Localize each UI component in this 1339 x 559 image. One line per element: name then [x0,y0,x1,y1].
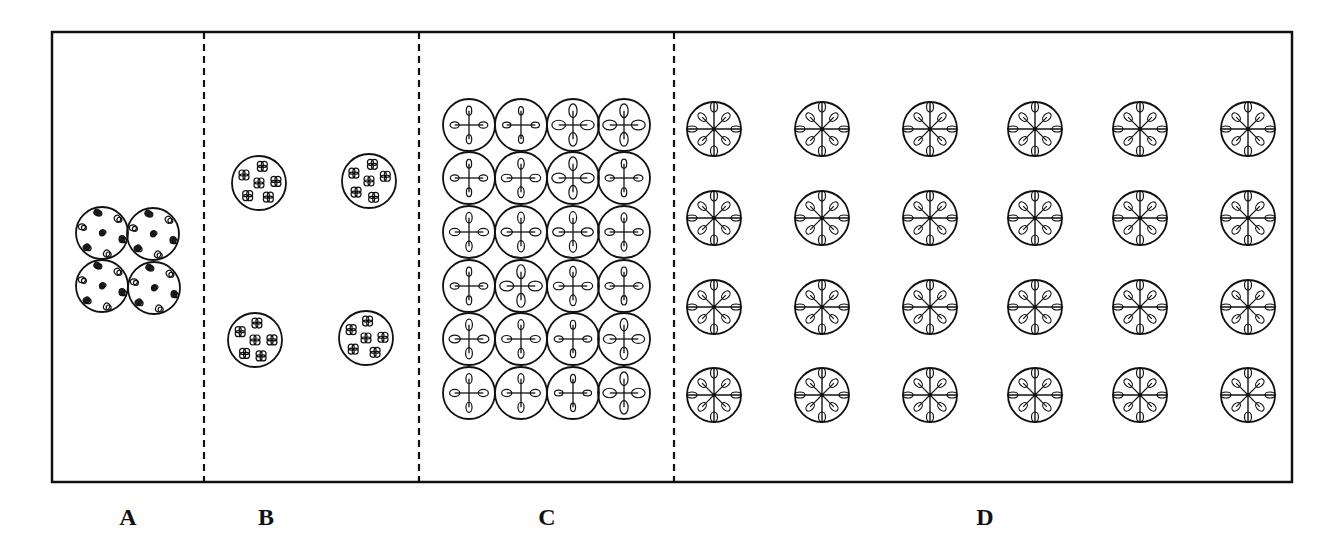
cell [598,99,650,151]
cell [598,367,650,419]
panel-dividers [204,32,674,482]
cell [547,99,599,151]
cell [687,280,741,334]
cell [903,368,957,422]
cell [795,280,849,334]
cell [342,154,396,208]
cell [1008,368,1062,422]
cell [598,206,650,258]
cell [547,313,599,365]
cell [547,260,599,312]
cell [495,260,547,312]
cell [443,152,495,204]
cell [598,313,650,365]
cell [1221,191,1275,245]
cell [795,191,849,245]
cell [495,313,547,365]
cell [1113,191,1167,245]
panel-label-c: C [538,505,555,529]
cell [443,206,495,258]
cell [495,367,547,419]
cell [547,367,599,419]
cell [903,280,957,334]
cell [1113,280,1167,334]
cell [547,206,599,258]
cell [903,191,957,245]
cell [687,102,741,156]
cell [1113,102,1167,156]
cell [443,367,495,419]
cell [795,102,849,156]
cell [687,368,741,422]
outer-frame [52,32,1292,482]
cell [1221,368,1275,422]
cell [228,313,282,367]
panel-label-b: B [258,505,274,529]
cell [1221,102,1275,156]
figure-canvas [0,0,1339,559]
cell [1113,368,1167,422]
cell [1221,280,1275,334]
cell [687,191,741,245]
cell [339,311,393,365]
cell [76,260,128,312]
panel-label-d: D [976,505,993,529]
cell [127,208,179,260]
cell [547,152,599,204]
cell [495,99,547,151]
cell [903,102,957,156]
panel-b [228,154,396,367]
cell [128,262,180,314]
cell [598,260,650,312]
cell [443,313,495,365]
panel-a [76,207,180,314]
panel-label-a: A [119,505,136,529]
cell [1008,102,1062,156]
cell [1008,191,1062,245]
cell [495,152,547,204]
panel-c [443,99,650,419]
cell [76,207,128,259]
cell [443,99,495,151]
cell [795,368,849,422]
cell [598,152,650,204]
panel-d [687,102,1275,422]
cell [495,206,547,258]
cell [1008,280,1062,334]
cell [443,260,495,312]
cell [232,156,286,210]
